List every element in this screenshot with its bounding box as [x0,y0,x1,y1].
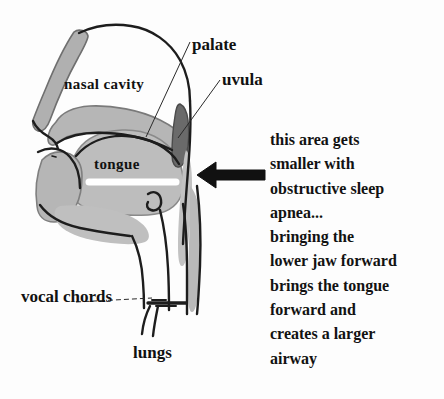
anterior-neck-outline [132,236,144,308]
label-lungs: lungs [133,344,172,361]
callout-line: bringing the [270,225,442,249]
label-palate: palate [192,36,236,53]
callout-line: lower jaw forward [270,249,442,273]
label-tongue: tongue [94,157,140,172]
label-uvula: uvula [222,71,263,88]
callout-paragraph: this area gets smaller with obstructive … [270,128,442,371]
left-pointing-arrow-icon [197,162,265,188]
callout-line: forward and [270,298,442,322]
callout-line: creates a larger [270,322,442,346]
nasal-detail-tick [52,156,56,157]
callout-line: airway [270,347,442,371]
figure-canvas: palate uvula nasal cavity tongue vocal c… [0,0,444,399]
trachea-front-outline [160,210,169,310]
bronchus-left-outline [142,306,150,334]
label-nasal-cavity: nasal cavity [64,77,144,92]
callout-line: this area gets [270,128,442,152]
label-vocal-chords: vocal chords [21,286,116,308]
callout-line: obstructive sleep [270,177,442,201]
bronchus-right-outline [153,306,158,336]
callout-line: smaller with [270,152,442,176]
callout-line: brings the tongue [270,274,442,298]
callout-line: apnea... [270,201,442,225]
